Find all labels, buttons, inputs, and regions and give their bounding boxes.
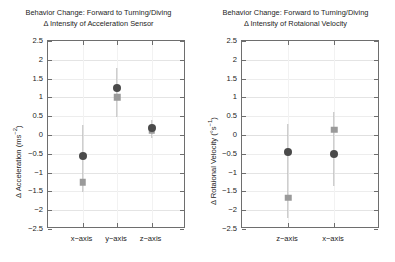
y-axis-tick [48, 135, 52, 136]
panel-left-title-block: Behavior Change: Forward to Turning/Divi… [0, 7, 197, 29]
x-axis-tick [152, 41, 153, 45]
panel-right-title-block: Behavior Change: Forward to Turning/Divi… [197, 7, 394, 29]
y-axis-tick-label: 0 [0, 130, 43, 139]
y-axis-tick [48, 60, 52, 61]
x-axis-tick [288, 223, 289, 227]
y-axis-tick-label: −0.5 [197, 148, 237, 157]
y-axis-tick-label: −1 [0, 167, 43, 176]
panel-left-subtitle: Δ Intensity of Acceleration Sensor [0, 18, 197, 29]
y-axis-tick [242, 135, 246, 136]
data-point-square [331, 126, 338, 133]
y-axis-tick [374, 135, 378, 136]
y-axis-tick-label: −1 [197, 167, 237, 176]
y-axis-tick-label: 0.5 [0, 111, 43, 120]
y-axis-tick [180, 229, 184, 230]
panel-right-title: Behavior Change: Forward to Turning/Divi… [197, 7, 394, 18]
x-axis-tick-label: x−axis [322, 234, 344, 243]
gridline [48, 173, 184, 174]
y-axis-tick-label: 2 [197, 54, 237, 63]
y-axis-tick-label: −2 [197, 205, 237, 214]
x-axis-tick [152, 223, 153, 227]
x-axis-tick [117, 223, 118, 227]
y-axis-tick-label: −0.5 [0, 148, 43, 157]
y-axis-tick [242, 173, 246, 174]
y-axis-tick [180, 97, 184, 98]
y-axis-tick-label: 2 [0, 54, 43, 63]
y-axis-tick [180, 191, 184, 192]
data-point-circle [148, 124, 156, 132]
y-axis-tick [48, 116, 52, 117]
y-axis-tick [374, 97, 378, 98]
panel-rotational: Behavior Change: Forward to Turning/Divi… [197, 0, 394, 262]
x-axis-tick [83, 41, 84, 45]
y-axis-tick [48, 210, 52, 211]
gridline [242, 210, 378, 211]
y-axis-tick [48, 97, 52, 98]
y-axis-tick-label: 1 [0, 92, 43, 101]
y-axis-tick [180, 135, 184, 136]
y-axis-tick [48, 173, 52, 174]
x-axis-tick-label: z−axis [140, 234, 162, 243]
data-point-square [79, 179, 86, 186]
data-point-square [285, 195, 292, 202]
y-axis-tick [242, 116, 246, 117]
y-axis-tick [48, 79, 52, 80]
x-axis-tick [117, 41, 118, 45]
figure-canvas: Behavior Change: Forward to Turning/Divi… [0, 0, 395, 262]
data-point-circle [79, 152, 87, 160]
gridline [48, 210, 184, 211]
data-point-circle [113, 84, 121, 92]
panel-acceleration: Behavior Change: Forward to Turning/Divi… [0, 0, 197, 262]
gridline [242, 191, 378, 192]
y-axis-tick [374, 191, 378, 192]
y-axis-tick [180, 79, 184, 80]
y-axis-tick [374, 60, 378, 61]
x-axis-tick [288, 41, 289, 45]
y-axis-tick [374, 41, 378, 42]
y-axis-tick [48, 191, 52, 192]
gridline [242, 60, 378, 61]
y-axis-tick [242, 210, 246, 211]
y-axis-tick [180, 116, 184, 117]
y-axis-tick [374, 210, 378, 211]
error-bar [333, 112, 334, 186]
y-axis-tick [180, 210, 184, 211]
y-axis-tick [242, 41, 246, 42]
y-axis-tick [374, 229, 378, 230]
panel-right-subtitle: Δ Intensity of Rotaional Velocity [197, 18, 394, 29]
y-axis-tick-label: −2.5 [0, 224, 43, 233]
y-axis-tick [180, 60, 184, 61]
gridline [48, 135, 184, 136]
y-axis-tick [242, 79, 246, 80]
y-axis-tick-label: −1.5 [0, 186, 43, 195]
y-axis-tick [180, 173, 184, 174]
y-axis-tick [180, 41, 184, 42]
data-point-circle [284, 148, 292, 156]
y-axis-tick-label: 1.5 [197, 73, 237, 82]
gridline [48, 191, 184, 192]
y-axis-tick [242, 60, 246, 61]
y-axis-tick [242, 154, 246, 155]
gridline [48, 154, 184, 155]
y-axis-tick-label: 1 [197, 92, 237, 101]
y-axis-tick-label: −1.5 [197, 186, 237, 195]
plot-area-acceleration [47, 40, 185, 228]
y-axis-tick [242, 191, 246, 192]
gridline [242, 135, 378, 136]
y-axis-tick-label: 2.5 [197, 36, 237, 45]
y-axis-tick [374, 79, 378, 80]
y-axis-tick-label: −2.5 [197, 224, 237, 233]
x-axis-tick-label: z−axis [276, 234, 298, 243]
gridline [48, 60, 184, 61]
error-bar [116, 68, 117, 117]
y-axis-tick-label: 1.5 [0, 73, 43, 82]
error-bar [287, 124, 288, 219]
x-axis-tick [334, 41, 335, 45]
y-axis-tick [242, 229, 246, 230]
x-axis-tick-label: y−axis [105, 234, 127, 243]
y-axis-tick-label: −2 [0, 205, 43, 214]
gridline [242, 79, 378, 80]
x-axis-tick [83, 223, 84, 227]
data-point-square [114, 94, 121, 101]
gridline [242, 116, 378, 117]
